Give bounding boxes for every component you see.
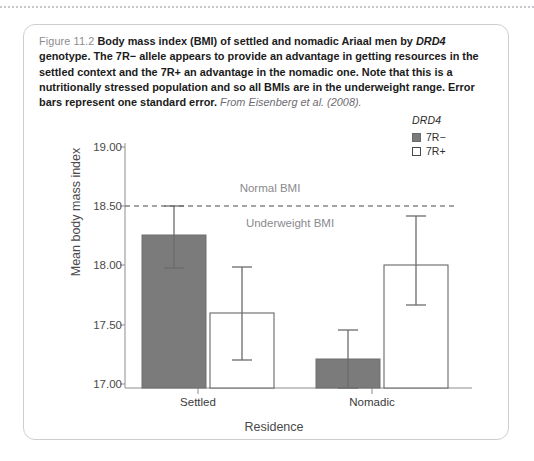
annotation-normal-bmi: Normal BMI bbox=[240, 182, 301, 194]
legend-title: DRD4 bbox=[412, 113, 446, 127]
legend-label-7r-minus: 7R− bbox=[426, 130, 446, 144]
chart-legend: DRD4 7R− 7R+ bbox=[412, 113, 446, 158]
legend-item-7r-plus: 7R+ bbox=[412, 144, 446, 158]
x-tick-settled: Settled bbox=[180, 396, 216, 408]
bmi-bar-chart: 17.00 17.50 18.00 18.50 19.00 bbox=[24, 25, 510, 441]
annotation-underweight-bmi: Underweight BMI bbox=[246, 217, 334, 229]
y-axis-title: Mean body mass index bbox=[69, 112, 83, 312]
x-tick-nomadic: Nomadic bbox=[349, 396, 394, 408]
legend-label-7r-plus: 7R+ bbox=[426, 144, 446, 158]
x-axis-title: Residence bbox=[124, 420, 424, 434]
legend-swatch-7r-plus bbox=[412, 147, 421, 156]
legend-swatch-7r-minus bbox=[412, 133, 421, 142]
legend-item-7r-minus: 7R− bbox=[412, 130, 446, 144]
y-tick-17-00: 17.00 bbox=[76, 378, 122, 390]
y-tick-17-50: 17.50 bbox=[76, 319, 122, 331]
figure-card: Figure 11.2 Body mass index (BMI) of set… bbox=[23, 24, 509, 440]
x-tick-marks bbox=[198, 388, 372, 394]
page-top-dotted-rule bbox=[0, 6, 534, 8]
